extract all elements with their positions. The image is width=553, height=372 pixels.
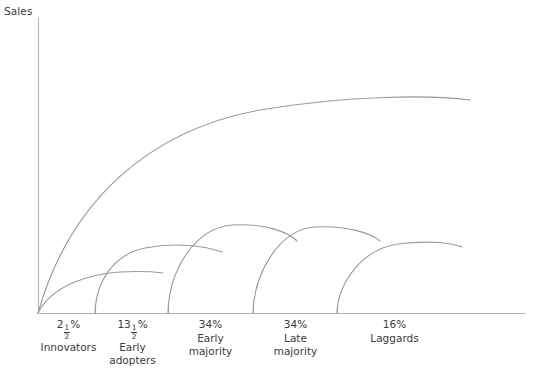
segment-name-early-adopters-line2: adopters (90, 354, 175, 368)
curve-laggards (337, 242, 462, 313)
segment-label-late-majority: 34% Late majority (253, 318, 338, 359)
segment-label-early-adopters: 1312% Early adopters (90, 318, 175, 368)
segment-name-late-majority-line2: majority (253, 345, 338, 359)
fraction-half: 12 (131, 324, 137, 340)
diffusion-of-innovation-chart: Sales 212% Innovators 1312% Early adopte… (0, 0, 553, 372)
curve-early-majority (168, 225, 297, 313)
segment-percent-laggards: 16% (352, 318, 437, 332)
segment-percent-early-majority: 34% (168, 318, 253, 332)
segment-name-early-majority-line2: majority (168, 345, 253, 359)
y-axis-title: Sales (4, 5, 32, 17)
segment-percent-early-adopters: 1312% (90, 318, 175, 341)
segment-name-laggards: Laggards (352, 332, 437, 346)
curve-innovators (38, 272, 163, 313)
segment-name-early-adopters-line1: Early (90, 341, 175, 355)
segment-name-early-majority-line1: Early (168, 332, 253, 346)
segment-label-laggards: 16% Laggards (352, 318, 437, 345)
curve-late-majority (253, 227, 380, 313)
segment-label-early-majority: 34% Early majority (168, 318, 253, 359)
segment-name-late-majority-line1: Late (253, 332, 338, 346)
segment-percent-late-majority: 34% (253, 318, 338, 332)
fraction-half: 12 (64, 324, 70, 340)
chart-canvas (0, 0, 553, 372)
curve-early-adopters (95, 245, 222, 313)
